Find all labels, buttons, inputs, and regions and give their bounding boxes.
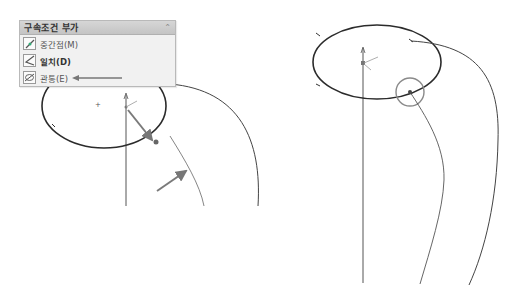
pierce-point[interactable] — [154, 140, 159, 145]
relation-item-midpoint[interactable]: 중간점(M) — [20, 35, 175, 52]
left-guide-curve[interactable] — [170, 84, 258, 206]
right-ellipse[interactable] — [313, 25, 441, 99]
callout-arrow-2 — [157, 171, 186, 191]
relation-item-coincident[interactable]: 일치(D) — [20, 52, 175, 69]
panel-header: 구속조건 부가 ⌃ — [20, 21, 175, 35]
right-path-curve[interactable] — [410, 92, 444, 284]
relation-item-label: 중간점(M) — [40, 38, 78, 50]
callout-arrow-left-icon — [72, 74, 122, 82]
coincident-icon — [23, 54, 36, 67]
relation-item-label: 관통(E) — [40, 72, 68, 84]
right-view — [313, 25, 498, 285]
panel-title: 구속조건 부가 — [24, 21, 79, 34]
relation-item-label: 일치(D) — [40, 55, 71, 67]
midpoint-icon — [23, 37, 36, 50]
add-relations-panel: 구속조건 부가 ⌃ 중간점(M) 일치(D) 관통(E) — [19, 20, 176, 87]
svg-text:+: + — [95, 101, 101, 109]
left-path-curve[interactable] — [170, 136, 204, 206]
relation-item-pierce[interactable]: 관통(E) — [20, 69, 175, 86]
callout-arrow-1 — [128, 110, 152, 140]
double-chevron-up-icon[interactable]: ⌃ — [164, 24, 171, 32]
pierce-icon — [23, 71, 36, 84]
right-guide-curve[interactable] — [411, 41, 498, 285]
